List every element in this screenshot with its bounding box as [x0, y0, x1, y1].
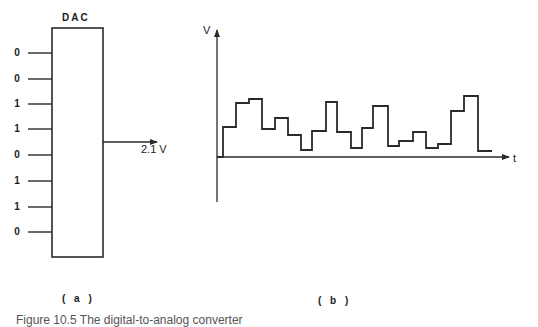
- figure-caption: Figure 10.5 The digital-to-analog conver…: [16, 313, 243, 327]
- chart-shapes: [217, 30, 509, 202]
- dac-box: [52, 28, 103, 257]
- staircase-waveform: [217, 96, 492, 157]
- dac-shapes: [28, 28, 157, 257]
